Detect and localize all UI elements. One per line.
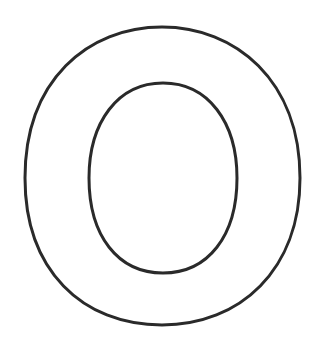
letter-o-svg — [0, 0, 320, 348]
inner-contour — [89, 83, 237, 273]
letter-o-figure: O — [0, 0, 320, 348]
outer-contour — [25, 27, 300, 325]
